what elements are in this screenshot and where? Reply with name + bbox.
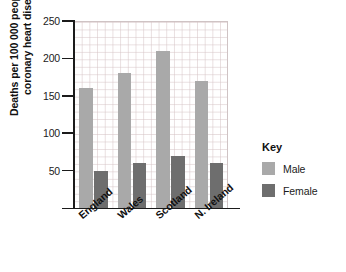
bar-series-container	[74, 21, 228, 208]
bar-group	[190, 21, 229, 208]
legend-swatch-male	[262, 162, 275, 175]
bar-n-ireland-male	[195, 81, 209, 208]
legend-label-male: Male	[283, 163, 305, 175]
bar-england-male	[79, 88, 93, 208]
bar-group	[151, 21, 190, 208]
bar-group	[113, 21, 152, 208]
legend-swatch-female	[262, 184, 275, 197]
bar-wales-male	[118, 73, 132, 208]
legend-label-female: Female	[283, 185, 317, 197]
y-axis-title-line-1: Deaths per 100 000 people from	[8, 0, 21, 135]
legend-item-male: Male	[262, 162, 346, 175]
y-axis-tick-label: 100	[20, 127, 60, 139]
legend: Key MaleFemale	[262, 141, 346, 206]
y-axis-tick-label: 200	[20, 52, 60, 64]
plot-area-wrapper	[74, 21, 228, 208]
bar-scotland-male	[156, 51, 170, 208]
y-axis-tick-label: 50	[20, 165, 60, 177]
bar-group	[74, 21, 113, 208]
y-axis-tick-label: 150	[20, 90, 60, 102]
bar-chart: Deaths per 100 000 people from coronary …	[0, 0, 346, 272]
y-axis-line	[73, 20, 75, 209]
legend-entries: MaleFemale	[262, 162, 346, 197]
y-axis-tick-label: 250	[20, 15, 60, 27]
legend-item-female: Female	[262, 184, 346, 197]
legend-title: Key	[262, 141, 346, 153]
